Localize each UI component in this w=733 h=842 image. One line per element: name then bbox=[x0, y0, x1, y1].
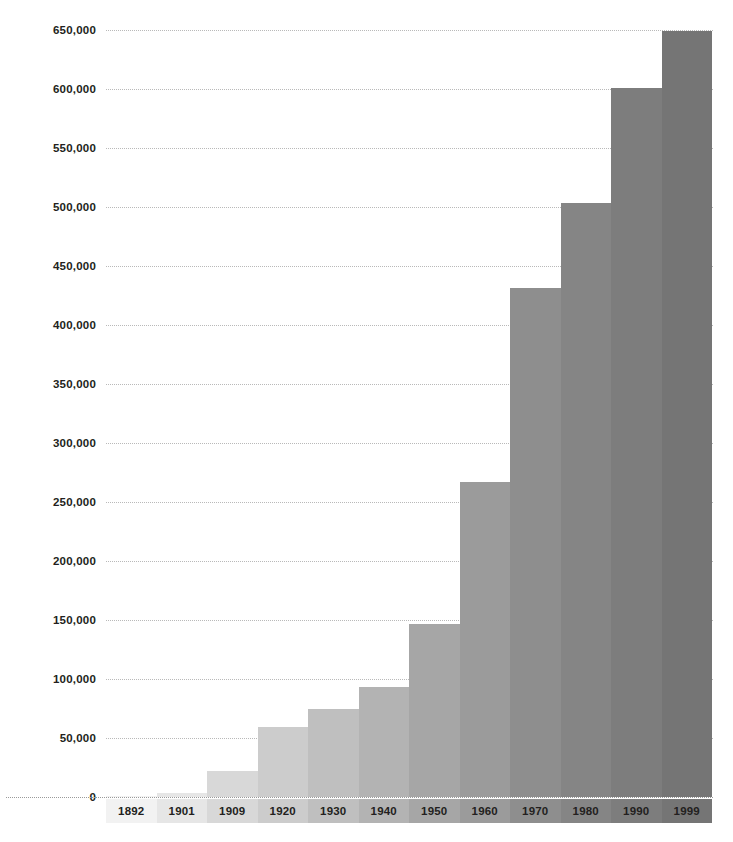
bar[interactable] bbox=[460, 482, 511, 797]
bar[interactable] bbox=[561, 203, 612, 797]
plot-area bbox=[106, 30, 713, 797]
x-axis-tick-label[interactable]: 1960 bbox=[460, 799, 511, 823]
y-axis-tick-label: 550,000 bbox=[12, 142, 96, 154]
x-axis-tick-label[interactable]: 1901 bbox=[157, 799, 208, 823]
x-axis-tick-label[interactable]: 1920 bbox=[258, 799, 309, 823]
y-axis-tick-label: 500,000 bbox=[12, 201, 96, 213]
y-axis-tick-label: 650,000 bbox=[12, 24, 96, 36]
x-axis-tick-label[interactable]: 1892 bbox=[106, 799, 157, 823]
x-axis-tick-label[interactable]: 1970 bbox=[510, 799, 561, 823]
y-axis-tick-label: 300,000 bbox=[12, 437, 96, 449]
x-axis-tick-label[interactable]: 1940 bbox=[359, 799, 410, 823]
bar[interactable] bbox=[207, 771, 258, 797]
y-axis-tick-label: 400,000 bbox=[12, 319, 96, 331]
x-axis-baseline bbox=[6, 797, 713, 798]
x-axis-label-band: 1892190119091920193019401950196019701980… bbox=[106, 799, 712, 823]
gridline bbox=[106, 30, 713, 31]
x-axis-tick-label[interactable]: 1999 bbox=[662, 799, 713, 823]
bar[interactable] bbox=[258, 727, 309, 797]
x-axis-tick-label[interactable]: 1909 bbox=[207, 799, 258, 823]
bar[interactable] bbox=[611, 88, 662, 797]
x-axis-tick-label[interactable]: 1980 bbox=[561, 799, 612, 823]
y-axis-tick-label: 200,000 bbox=[12, 555, 96, 567]
y-axis-tick-label: 350,000 bbox=[12, 378, 96, 390]
x-axis-tick-label[interactable]: 1990 bbox=[611, 799, 662, 823]
y-axis-tick-label: 100,000 bbox=[12, 673, 96, 685]
y-axis-tick-label: 600,000 bbox=[12, 83, 96, 95]
bar[interactable] bbox=[359, 687, 410, 797]
bar[interactable] bbox=[510, 288, 561, 797]
y-axis-tick-label: 250,000 bbox=[12, 496, 96, 508]
y-axis-tick-label: 150,000 bbox=[12, 614, 96, 626]
bar[interactable] bbox=[409, 624, 460, 797]
x-axis-tick-label[interactable]: 1930 bbox=[308, 799, 359, 823]
x-axis-tick-label[interactable]: 1950 bbox=[409, 799, 460, 823]
bar[interactable] bbox=[662, 31, 713, 797]
bar[interactable] bbox=[308, 709, 359, 798]
y-axis: 050,000100,000150,000200,000250,000300,0… bbox=[0, 30, 96, 797]
y-axis-tick-label: 450,000 bbox=[12, 260, 96, 272]
y-axis-tick-label: 50,000 bbox=[12, 732, 96, 744]
bar-chart: 050,000100,000150,000200,000250,000300,0… bbox=[0, 0, 733, 842]
